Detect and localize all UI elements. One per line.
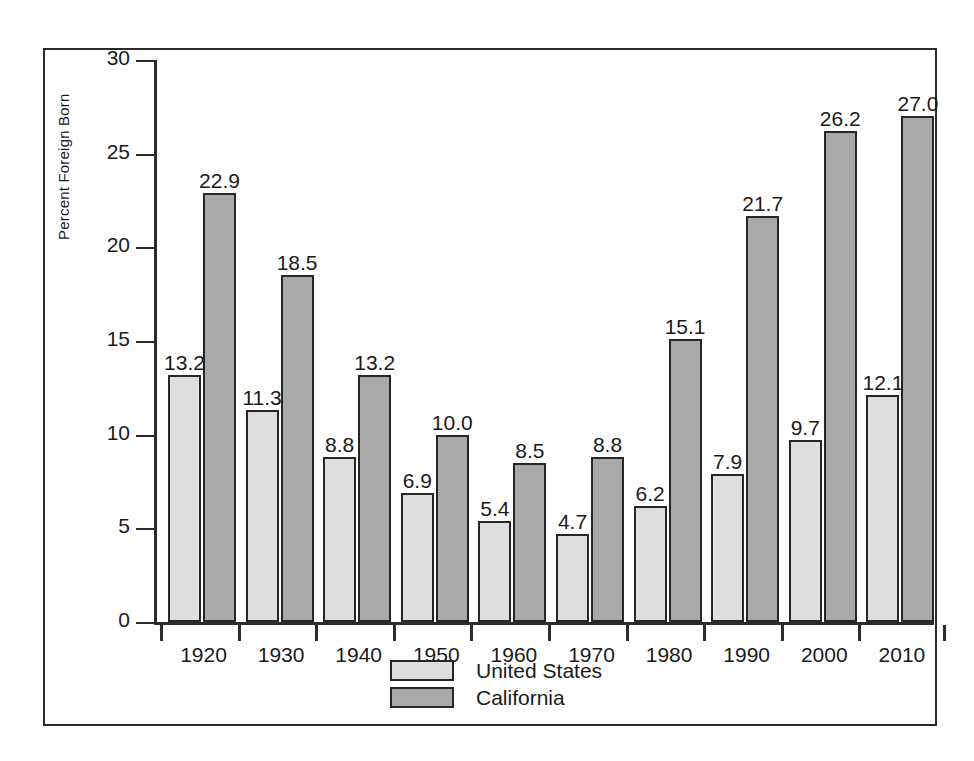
chart-legend: United StatesCalifornia [390,657,602,711]
y-axis-line [154,60,157,625]
x-axis-tick-mark [943,625,946,641]
bar-value-label: 8.5 [515,440,544,462]
x-axis-tick-mark [626,625,629,641]
bar[interactable]: 5.4 [478,521,511,622]
x-axis-tick-label: 1930 [258,644,305,666]
bar-value-label: 22.9 [199,170,240,192]
y-axis-tick-label: 5 [70,515,130,536]
bar-value-label: 21.7 [742,193,783,215]
x-axis-tick-mark [160,625,163,641]
bar[interactable]: 8.8 [591,457,624,622]
bar[interactable]: 9.7 [789,440,822,622]
bar-group: 8.813.2 [323,60,394,622]
plot-area: 051015202530 13.222.911.318.58.813.26.91… [154,60,940,625]
bar[interactable]: 8.8 [323,457,356,622]
bar-value-label: 12.1 [862,372,903,394]
y-axis-tick-label: 25 [70,141,130,162]
legend-label: California [476,687,565,709]
bar-value-label: 6.9 [403,470,432,492]
bar-value-label: 11.3 [242,387,281,409]
legend-item[interactable]: California [390,684,602,711]
legend-swatch [390,687,454,708]
bar[interactable]: 4.7 [556,534,589,622]
x-axis-tick-mark [703,625,706,641]
bar[interactable]: 22.9 [203,193,236,622]
x-axis-tick-mark [470,625,473,641]
bar[interactable]: 13.2 [168,375,201,622]
bar-group: 5.48.5 [478,60,549,622]
bar-value-label: 13.2 [164,352,205,374]
y-axis-tick-mark [136,528,154,530]
y-axis-tick-label: 10 [70,422,130,443]
bar-value-label: 27.0 [897,93,938,115]
bar-group: 6.215.1 [634,60,705,622]
y-axis-tick-mark [136,60,154,62]
bar[interactable]: 12.1 [866,395,899,622]
bar-value-label: 18.5 [277,252,318,274]
y-axis-tick-mark [136,154,154,156]
y-axis-tick-mark [136,622,154,624]
bar[interactable]: 8.5 [513,463,546,622]
bar-value-label: 26.2 [820,108,861,130]
bar-group: 4.78.8 [556,60,627,622]
x-axis-tick-mark [548,625,551,641]
x-axis-tick-mark [781,625,784,641]
x-axis-tick-mark [315,625,318,641]
y-axis-tick-label: 15 [70,328,130,349]
bar-value-label: 6.2 [635,483,664,505]
x-axis-tick-mark [858,625,861,641]
bar-group: 6.910.0 [401,60,472,622]
bar[interactable]: 6.9 [401,493,434,622]
bar-group: 11.318.5 [246,60,317,622]
bar[interactable]: 27.0 [901,116,934,622]
bar-value-label: 15.1 [665,316,706,338]
x-axis-tick-label: 1980 [646,644,693,666]
bar[interactable]: 7.9 [711,474,744,622]
bar[interactable]: 18.5 [281,275,314,622]
x-axis-tick-mark [238,625,241,641]
bar[interactable]: 6.2 [634,506,667,622]
y-axis-tick-mark [136,435,154,437]
x-axis-tick-label: 1920 [180,644,227,666]
bar[interactable]: 15.1 [669,339,702,622]
legend-label: United States [476,660,602,682]
x-axis-tick-label: 1990 [723,644,770,666]
y-axis-tick-label: 0 [70,609,130,630]
x-axis-line [154,622,934,625]
bar[interactable]: 21.7 [746,216,779,623]
bar-group: 9.726.2 [789,60,860,622]
legend-item[interactable]: United States [390,657,602,684]
bar-value-label: 4.7 [558,511,587,533]
y-axis-tick-label: 20 [70,234,130,255]
y-axis-title: Percent Foreign Born [55,93,72,240]
legend-swatch [390,660,454,681]
x-axis-tick-label: 2010 [879,644,926,666]
bar-value-label: 13.2 [354,352,395,374]
bar-value-label: 7.9 [713,451,742,473]
x-axis-tick-label: 2000 [801,644,848,666]
bar-value-label: 8.8 [325,434,354,456]
bar[interactable]: 13.2 [358,375,391,622]
bar[interactable]: 11.3 [246,410,279,622]
bar-value-label: 10.0 [432,412,473,434]
bar-group: 13.222.9 [168,60,239,622]
bar-group: 12.127.0 [866,60,937,622]
y-axis-tick-mark [136,247,154,249]
bar-value-label: 9.7 [791,417,820,439]
bar-value-label: 8.8 [593,434,622,456]
y-axis-tick-mark [136,341,154,343]
y-axis-tick-label: 30 [70,47,130,68]
x-axis-tick-mark [393,625,396,641]
x-axis-tick-label: 1940 [335,644,382,666]
bar[interactable]: 10.0 [436,435,469,622]
bar-group: 7.921.7 [711,60,782,622]
bar-value-label: 5.4 [480,498,509,520]
chart-frame: Percent Foreign Born 051015202530 13.222… [43,48,937,726]
bar[interactable]: 26.2 [824,131,857,622]
